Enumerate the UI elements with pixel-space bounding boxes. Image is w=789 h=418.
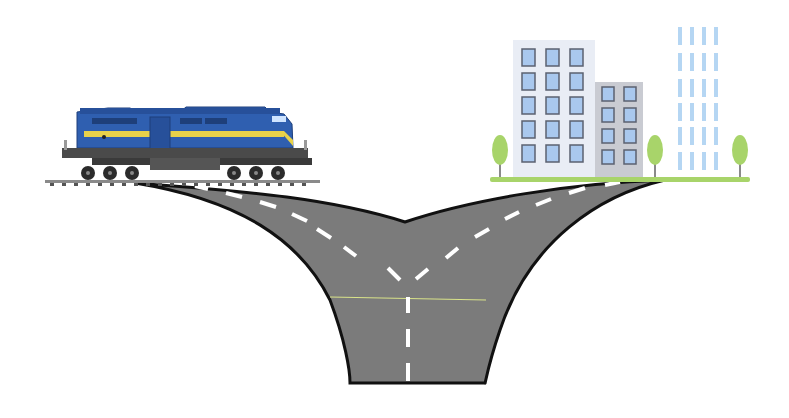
rail bbox=[45, 180, 320, 183]
fork-road-illustration bbox=[0, 0, 789, 418]
tree-right bbox=[732, 135, 748, 165]
grass-strip bbox=[490, 177, 750, 182]
yellow-stripe bbox=[84, 131, 284, 137]
tall-building-windows bbox=[522, 49, 583, 162]
road-asphalt bbox=[135, 180, 665, 383]
chassis bbox=[62, 148, 308, 158]
city bbox=[490, 27, 750, 182]
tree-middle bbox=[647, 135, 663, 165]
tree-left bbox=[492, 135, 508, 165]
cab-window bbox=[272, 116, 286, 122]
forked-road bbox=[135, 180, 665, 383]
roof-top bbox=[80, 108, 280, 114]
locomotive bbox=[45, 107, 320, 186]
faint-building bbox=[678, 27, 718, 170]
